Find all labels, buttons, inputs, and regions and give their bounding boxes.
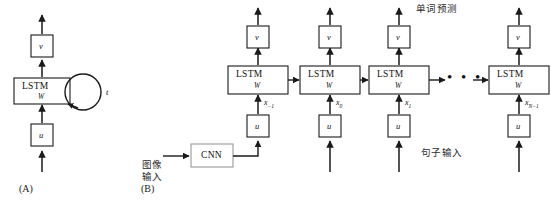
- panel-b-input-box-label-1: u: [327, 122, 331, 131]
- panel-a-caption: (A): [19, 184, 33, 194]
- panel-b-graphics: [163, 8, 549, 172]
- figure-canvas: v LSTM W u t (A) (B) CNN 单词预测 句子输入 图像 输入…: [0, 0, 551, 205]
- panel-b-x-subscript-2: 1: [409, 103, 412, 109]
- sentence-input-label: 句子输入: [421, 148, 463, 158]
- panel-b-cell-box-label-2: LSTM: [377, 70, 404, 80]
- panel-b-x-subscript-3: N−1: [529, 103, 539, 109]
- panel-b-input-box-label-2: u: [396, 122, 400, 131]
- panel-a-output-box-label: v: [39, 42, 43, 51]
- word-prediction-label: 单词预测: [416, 4, 458, 14]
- panel-b-ellipsis: • • •: [447, 70, 483, 85]
- panel-a-graphics: [14, 15, 101, 172]
- panel-b-caption: (B): [141, 184, 154, 194]
- panel-b-cell-box-label-3: LSTM: [497, 70, 524, 80]
- panel-b-cell-box-sublabel-0: W: [254, 82, 260, 90]
- panel-b-output-box-label-0: v: [255, 33, 259, 42]
- panel-b-x-subscript-1: 0: [340, 103, 343, 109]
- image-input-label-line1: 图像: [142, 160, 163, 170]
- panel-a-cell-box-label: LSTM: [22, 82, 49, 92]
- image-input-label-line2: 输入: [142, 172, 163, 182]
- panel-b-output-box-label-2: v: [396, 33, 400, 42]
- panel-b-x-subscript-0: −1: [268, 103, 274, 109]
- panel-b-cell-box-sublabel-1: W: [326, 82, 332, 90]
- panel-a-cell-box-sublabel: W: [38, 93, 44, 101]
- panel-b-input-box-label-3: u: [516, 122, 520, 131]
- panel-b-output-box-label-1: v: [327, 33, 331, 42]
- panel-b-input-box-label-0: u: [255, 122, 259, 131]
- panel-b-x-label-1: x0: [336, 99, 342, 109]
- panel-b-cnn-label: CNN: [201, 151, 222, 161]
- panel-b-x-label-3: xN−1: [525, 99, 539, 109]
- panel-b-path-cnn-to-u0: [233, 141, 258, 156]
- panel-b-output-box-label-3: v: [516, 33, 520, 42]
- panel-b-cell-box-sublabel-2: W: [395, 82, 401, 90]
- panel-b-cell-box-label-0: LSTM: [236, 70, 263, 80]
- panel-b-x-label-0: x−1: [264, 99, 274, 109]
- panel-b-x-label-2: x1: [405, 99, 411, 109]
- panel-a-recurrence-label: t: [106, 88, 108, 97]
- panel-b-cell-box-sublabel-3: W: [515, 82, 521, 90]
- diagram-svg: [0, 0, 551, 205]
- panel-a-input-box-label: u: [39, 131, 43, 140]
- panel-b-cell-box-label-1: LSTM: [308, 70, 335, 80]
